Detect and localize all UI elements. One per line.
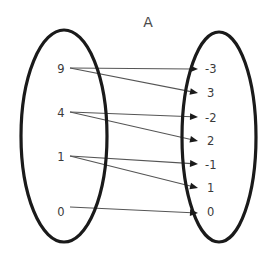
element-label-codomain-3: 2	[207, 134, 214, 148]
element-label-codomain-2: -2	[205, 111, 216, 125]
element-label-domain-1: 4	[57, 106, 64, 120]
mapping-arrow-0-to-0	[70, 207, 198, 216]
arrow-head-icon	[190, 113, 198, 120]
arrow-head-icon	[189, 136, 198, 143]
element-label-codomain-5: 1	[207, 181, 214, 195]
mapping-arrow-9-to-3	[70, 68, 198, 95]
mapping-arrow-1-to-1	[70, 156, 198, 189]
arrow-line	[70, 68, 192, 92]
element-label-codomain-4: -1	[205, 158, 216, 172]
element-label-domain-0: 9	[57, 62, 64, 76]
arrow-head-icon	[190, 160, 198, 167]
element-label-codomain-1: 3	[207, 86, 214, 100]
arrow-line	[70, 156, 192, 164]
mapping-arrow-1-to--1	[70, 156, 198, 167]
diagram-canvas: 9410 -33-22-110 A	[0, 0, 280, 260]
arrow-layer	[70, 66, 198, 216]
codomain-ellipse	[182, 32, 256, 242]
arrow-line	[70, 207, 192, 213]
element-label-codomain-6: 0	[207, 205, 214, 219]
element-label-codomain-0: -3	[205, 62, 216, 76]
codomain-label-layer: -33-22-110	[205, 62, 216, 219]
arrow-line	[70, 156, 192, 187]
arrow-head-icon	[189, 183, 198, 190]
domain-label-layer: 9410	[57, 62, 64, 219]
relation-diagram: 9410 -33-22-110 A	[0, 0, 280, 260]
diagram-title: A	[143, 14, 153, 30]
arrow-head-icon	[189, 88, 198, 95]
element-label-domain-2: 1	[57, 150, 64, 164]
arrow-line	[70, 68, 192, 69]
element-label-domain-3: 0	[57, 205, 64, 219]
